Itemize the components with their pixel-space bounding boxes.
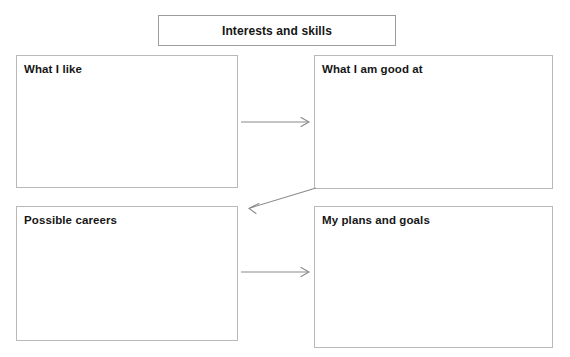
arrow-diagonal-down-left <box>249 188 316 214</box>
worksheet-canvas: Interests and skills What I like What I … <box>0 0 570 357</box>
box-my-plans-and-goals[interactable]: My plans and goals <box>314 206 553 348</box>
arrow-top-right <box>241 118 309 127</box>
title-box: Interests and skills <box>158 15 396 46</box>
box-label-my-plans-and-goals: My plans and goals <box>322 214 430 226</box>
box-possible-careers[interactable]: Possible careers <box>16 206 238 341</box>
box-what-i-am-good-at[interactable]: What I am good at <box>314 55 553 189</box>
box-label-possible-careers: Possible careers <box>24 214 117 226</box>
page-title: Interests and skills <box>222 24 332 38</box>
arrow-bottom-right <box>241 268 309 277</box>
box-label-what-i-am-good-at: What I am good at <box>322 63 423 75</box>
box-label-what-i-like: What I like <box>24 63 82 75</box>
box-what-i-like[interactable]: What I like <box>16 55 238 188</box>
